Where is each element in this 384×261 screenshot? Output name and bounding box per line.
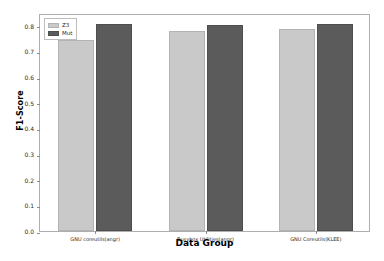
y-axis-tick-mark xyxy=(37,53,40,54)
bar-chart-figure: F1-Score 0.00.10.20.30.40.50.60.70.8 GNU… xyxy=(0,0,384,261)
y-axis-tick-label: 0.8 xyxy=(14,23,34,30)
y-axis-tick-label: 0.6 xyxy=(14,74,34,81)
y-axis-tick-label: 0.4 xyxy=(14,125,34,132)
bar-mut-0 xyxy=(96,24,132,231)
y-axis-tick-mark xyxy=(37,79,40,80)
legend-item-z3[interactable]: Z3 xyxy=(48,21,72,29)
plot-area: 0.00.10.20.30.40.50.60.70.8 GNU coreutil… xyxy=(39,14,370,232)
y-axis-tick-label: 0.7 xyxy=(14,48,34,55)
y-axis-tick-label: 0.1 xyxy=(14,202,34,209)
bar-z3-1 xyxy=(169,31,205,231)
y-axis-tick-mark xyxy=(37,233,40,234)
y-axis-tick-label: 0.5 xyxy=(14,100,34,107)
y-axis-tick-label: 0.3 xyxy=(14,151,34,158)
x-axis-title: Data Group xyxy=(39,238,370,248)
x-axis-tick-mark xyxy=(95,231,96,234)
y-axis-tick-mark xyxy=(37,181,40,182)
x-axis-tick-mark xyxy=(316,231,317,234)
y-axis-tick-mark xyxy=(37,130,40,131)
bar-z3-2 xyxy=(279,29,315,231)
bar-z3-0 xyxy=(58,40,94,231)
legend-label: Z3 xyxy=(62,22,69,28)
bar-mut-2 xyxy=(317,24,353,231)
y-axis-tick-mark xyxy=(37,207,40,208)
y-axis-tick-mark xyxy=(37,104,40,105)
x-axis-tick-mark xyxy=(206,231,207,234)
y-axis-tick-label: 0.2 xyxy=(14,177,34,184)
bar-mut-1 xyxy=(207,25,243,231)
legend-swatch-icon xyxy=(48,23,59,28)
y-axis-tick-label: 0.0 xyxy=(14,228,34,235)
y-axis-tick-mark xyxy=(37,156,40,157)
legend-swatch-icon xyxy=(48,31,59,36)
y-axis-tick-mark xyxy=(37,27,40,28)
chart-legend: Z3Mut xyxy=(44,18,77,40)
legend-item-mut[interactable]: Mut xyxy=(48,29,72,37)
legend-label: Mut xyxy=(62,30,72,36)
